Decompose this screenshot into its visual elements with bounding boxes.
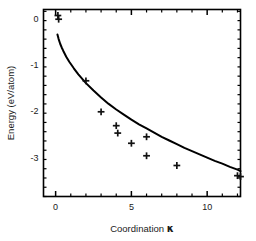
fit-curve-path: [57, 35, 240, 172]
x-tick-label: 0: [53, 202, 58, 212]
data-point-marker: [98, 108, 105, 115]
y-tick-labels: 0-1-2-3: [30, 14, 38, 163]
y-axis-label: Energy (eV/atom): [5, 66, 16, 140]
data-point-marker: [173, 162, 180, 169]
data-point-marker: [128, 140, 135, 147]
plot-frame: [44, 10, 241, 197]
y-tick-label: 0: [33, 14, 38, 24]
data-point-marker: [143, 152, 150, 159]
data-point-marker: [113, 122, 120, 129]
x-tick-label: 10: [202, 202, 212, 212]
data-point-marker: [55, 16, 62, 23]
data-point-marker: [143, 133, 150, 140]
chart-figure: 0510 0-1-2-3 Coordination κ Energy (eV/a…: [0, 0, 256, 241]
data-point-markers: [54, 12, 243, 180]
x-axis-label: Coordination κ: [110, 223, 174, 234]
data-point-marker: [83, 77, 90, 84]
y-tick-label: -2: [30, 106, 38, 116]
data-point-marker: [114, 130, 121, 137]
fit-curve: [57, 35, 240, 172]
y-tick-label: -1: [30, 60, 38, 70]
x-tick-labels: 0510: [53, 202, 212, 212]
x-tick-label: 5: [129, 202, 134, 212]
axis-ticks: [44, 10, 241, 197]
energy-vs-coordination-plot: 0510 0-1-2-3 Coordination κ Energy (eV/a…: [0, 0, 256, 241]
y-tick-label: -3: [30, 153, 38, 163]
